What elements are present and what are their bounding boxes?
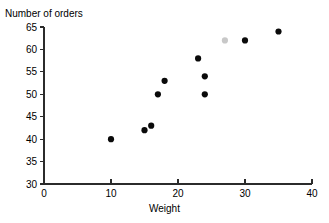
plot-area: 3035404550556065010203040: [0, 0, 329, 223]
y-tick-label: 35: [26, 156, 38, 167]
y-tick-label: 55: [26, 66, 38, 77]
data-point: [222, 37, 228, 43]
data-point: [202, 73, 208, 79]
scatter-chart: Number of orders 30354045505560650102030…: [0, 0, 329, 223]
x-tick-label: 30: [239, 188, 251, 199]
data-point: [155, 91, 161, 97]
data-point: [242, 37, 248, 43]
x-tick-label: 20: [172, 188, 184, 199]
data-point: [275, 28, 281, 34]
data-point: [202, 91, 208, 97]
y-tick-label: 45: [26, 111, 38, 122]
y-tick-label: 65: [26, 22, 38, 33]
data-point: [195, 55, 201, 61]
data-point: [162, 78, 168, 84]
x-axis-title: Weight: [0, 203, 329, 215]
x-tick-label: 10: [105, 188, 117, 199]
data-point: [148, 123, 154, 129]
x-tick-label: 40: [306, 188, 318, 199]
x-tick-label: 0: [41, 188, 47, 199]
tick-label-group: 3035404550556065010203040: [26, 22, 318, 200]
data-point-group: [108, 28, 282, 142]
data-point: [108, 136, 114, 142]
y-tick-label: 40: [26, 134, 38, 145]
y-tick-label: 50: [26, 89, 38, 100]
axis-group: [40, 27, 312, 184]
y-tick-label: 30: [26, 179, 38, 190]
y-tick-label: 60: [26, 44, 38, 55]
data-point: [141, 127, 147, 133]
